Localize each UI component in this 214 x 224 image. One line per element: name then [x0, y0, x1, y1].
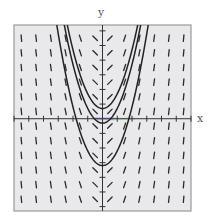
slope-segment	[169, 181, 170, 187]
slope-segment	[183, 167, 184, 173]
slope-segment	[21, 79, 22, 85]
slope-segment	[50, 123, 51, 129]
slope-segment	[154, 196, 155, 202]
slope-segment	[183, 196, 184, 202]
slope-segment	[36, 123, 37, 129]
slope-segment	[21, 167, 22, 173]
slope-segment	[183, 152, 184, 158]
slope-segment	[21, 64, 22, 70]
slope-segment	[21, 123, 22, 129]
slope-segment	[50, 181, 51, 187]
slope-segment	[154, 35, 155, 41]
slope-segment	[21, 108, 22, 114]
slope-segment	[154, 152, 155, 158]
slope-segment	[36, 181, 37, 187]
x-axis-label: x	[197, 112, 203, 125]
slope-segment	[169, 35, 170, 41]
slope-segment	[36, 50, 37, 56]
slope-segment	[154, 79, 155, 85]
slope-segment	[154, 167, 155, 173]
slope-segment	[169, 167, 170, 173]
slope-segment	[50, 167, 51, 173]
y-axis-label: y	[98, 6, 104, 19]
slope-segment	[50, 64, 51, 70]
slope-segment	[50, 35, 51, 41]
slope-segment	[154, 138, 155, 144]
slope-segment	[154, 64, 155, 70]
slope-segment	[169, 108, 170, 114]
slope-segment	[36, 167, 37, 173]
slope-segment	[183, 50, 184, 56]
slope-segment	[183, 181, 184, 187]
slope-segment	[36, 152, 37, 158]
slope-segment	[50, 50, 51, 56]
slope-segment	[154, 50, 155, 56]
slope-segment	[36, 79, 37, 85]
slope-segment	[21, 50, 22, 56]
slope-segment	[36, 35, 37, 41]
slope-segment	[169, 152, 170, 158]
slope-segment	[169, 123, 170, 129]
slope-segment	[183, 138, 184, 144]
slope-segment	[183, 123, 184, 129]
slope-segment	[50, 79, 51, 85]
slope-segment	[36, 64, 37, 70]
slope-segment	[169, 94, 170, 100]
slope-segment	[36, 108, 37, 114]
slope-segment	[21, 152, 22, 158]
slope-segment	[154, 94, 155, 100]
slope-segment	[183, 64, 184, 70]
slope-segment	[169, 138, 170, 144]
slope-segment	[183, 35, 184, 41]
slope-segment	[50, 152, 51, 158]
slope-segment	[169, 50, 170, 56]
slope-segment	[21, 181, 22, 187]
slope-segment	[169, 196, 170, 202]
slope-segment	[50, 108, 51, 114]
slope-segment	[50, 94, 51, 100]
slope-segment	[21, 196, 22, 202]
slope-segment	[50, 138, 51, 144]
slope-field-chart	[0, 0, 214, 224]
slope-segment	[36, 196, 37, 202]
slope-segment	[21, 35, 22, 41]
slope-segment	[50, 196, 51, 202]
slope-segment	[169, 79, 170, 85]
slope-segment	[36, 94, 37, 100]
slope-segment	[183, 94, 184, 100]
slope-segment	[36, 138, 37, 144]
slope-segment	[154, 108, 155, 114]
slope-segment	[183, 79, 184, 85]
slope-segment	[21, 138, 22, 144]
slope-segment	[154, 181, 155, 187]
slope-segment	[183, 108, 184, 114]
slope-segment	[154, 123, 155, 129]
slope-segment	[21, 94, 22, 100]
slope-segment	[169, 64, 170, 70]
